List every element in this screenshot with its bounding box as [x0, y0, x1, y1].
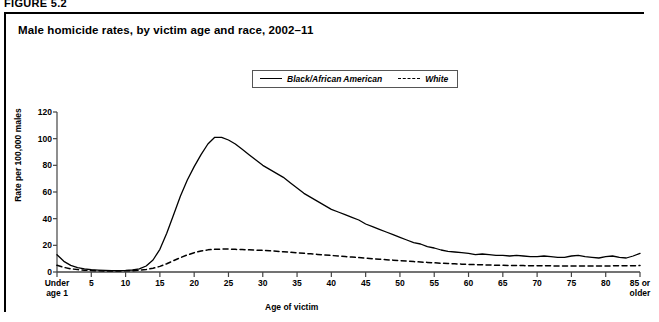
series-line-white	[57, 249, 640, 271]
plot-area: Rate per 100,000 males Age of victim 020…	[0, 0, 659, 322]
series-lines	[57, 137, 640, 271]
series-line-black-african-american	[57, 137, 640, 270]
tick-marks	[53, 112, 640, 277]
axis-lines	[57, 112, 640, 272]
x-tick-label: 85 orolder	[618, 279, 659, 298]
y-axis-label: Rate per 100,000 males	[13, 90, 23, 220]
y-tick-label: 120	[26, 107, 52, 117]
chart-canvas	[0, 0, 659, 322]
y-tick-label: 20	[26, 240, 52, 250]
x-axis-label: Age of victim	[265, 302, 318, 312]
y-tick-label: 0	[26, 267, 52, 277]
y-tick-label: 40	[26, 214, 52, 224]
y-tick-label: 80	[26, 160, 52, 170]
y-tick-label: 60	[26, 187, 52, 197]
y-tick-label: 100	[26, 134, 52, 144]
